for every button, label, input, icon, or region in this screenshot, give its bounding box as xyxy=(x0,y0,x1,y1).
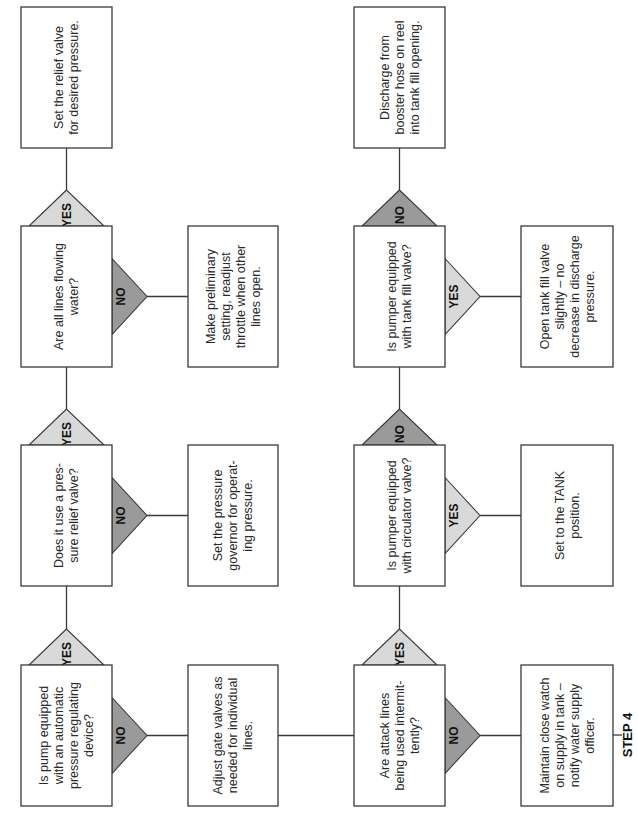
text-line: Make preliminary xyxy=(204,248,218,344)
text-line: with tank fill valve? xyxy=(400,244,414,349)
text-line: on supply in tank – xyxy=(553,683,567,787)
text-line: Is pumper equipped xyxy=(385,241,399,352)
text-line: Set the relief valve xyxy=(52,26,66,129)
text-line: lines. xyxy=(241,721,255,750)
text-line: Are attack lines xyxy=(378,693,392,778)
text-line: ing pressure. xyxy=(241,479,255,551)
no-branch-triangle-label: NO xyxy=(114,507,128,525)
text-line: being used intermit- xyxy=(393,681,407,791)
no-branch-triangle-label: NO xyxy=(114,727,128,745)
step-marker: STEP 4 xyxy=(613,712,635,757)
text-line: Is pump equipped xyxy=(37,686,51,785)
text-line: lines open. xyxy=(249,266,263,326)
text-line: decrease in discharge xyxy=(568,235,582,357)
text-line: needed for individual xyxy=(226,678,240,793)
text-line: booster hose on reel xyxy=(393,21,407,135)
text-line: governor for operat- xyxy=(226,460,240,570)
text-line: pressure. xyxy=(583,270,597,322)
yes-branch-triangle-label: YES xyxy=(447,284,461,308)
text-line: for desired pressure. xyxy=(67,20,81,135)
yes-branch-triangle-label: YES xyxy=(447,503,461,527)
decision-circulator-valve-text: Is pumper equippedwith circulator valve? xyxy=(385,457,414,574)
yes-branch-triangle-label: YES xyxy=(393,642,407,666)
text-line: throttle when other xyxy=(234,245,248,349)
flowchart-nodes: Set the relief valvefor desired pressure… xyxy=(21,7,613,806)
text-line: notify water supply xyxy=(568,683,582,787)
text-line: Adjust gate valves as xyxy=(211,676,225,794)
text-line: with an automatic xyxy=(52,687,66,785)
text-line: tently? xyxy=(408,717,422,754)
text-line: Does it use a pres- xyxy=(52,463,66,568)
decision-pressure-relief-valve-text: Does it use a pres-sure relief valve? xyxy=(52,463,81,568)
no-branch-triangle-label: NO xyxy=(114,288,128,306)
text-line: Set the pressure xyxy=(211,470,225,562)
text-line: Discharge from xyxy=(378,35,392,120)
text-line: with circulator valve? xyxy=(400,457,414,574)
text-line: Maintain close watch xyxy=(538,677,552,793)
yes-branch-triangle-label: YES xyxy=(60,642,74,666)
text-line: pressure regulating xyxy=(67,682,81,789)
text-line: Open tank fill valve xyxy=(538,244,552,350)
flowchart: Set the relief valvefor desired pressure… xyxy=(0,0,638,817)
action-discharge-booster-hose-text: Discharge frombooster hose on reelinto t… xyxy=(378,21,422,135)
yes-branch-triangle-label: YES xyxy=(60,422,74,446)
text-line: Is pumper equipped xyxy=(385,460,399,571)
no-branch-triangle-label: NO xyxy=(447,727,461,745)
text-line: sure relief valve? xyxy=(67,468,81,563)
connector-lines xyxy=(67,148,522,736)
text-line: device? xyxy=(82,714,96,757)
text-line: water? xyxy=(67,278,81,317)
no-branch-triangle-label: NO xyxy=(393,206,407,224)
action-set-relief-valve-text: Set the relief valvefor desired pressure… xyxy=(52,20,81,135)
decision-tank-fill-valve-text: Is pumper equippedwith tank fill valve? xyxy=(385,241,414,352)
text-line: slightly – no xyxy=(553,263,567,329)
text-line: Are all lines flowing xyxy=(52,243,66,350)
text-line: setting, readjust xyxy=(219,252,233,341)
text-line: officer. xyxy=(583,717,597,754)
step-label: STEP 4 xyxy=(620,712,635,757)
text-line: position. xyxy=(568,492,582,539)
text-line: into tank fill opening. xyxy=(408,21,422,135)
no-branch-triangle-label: NO xyxy=(393,425,407,443)
text-line: Set to the TANK xyxy=(553,470,567,560)
yes-branch-triangle-label: YES xyxy=(60,203,74,227)
